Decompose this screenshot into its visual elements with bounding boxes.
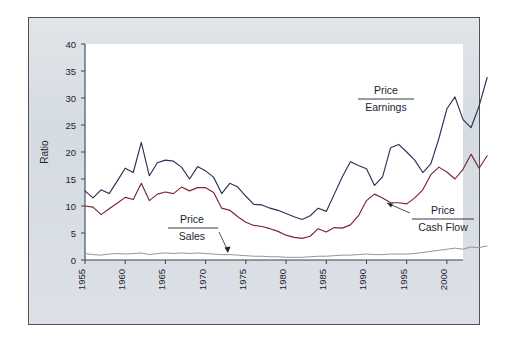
pe-denominator-label: Earnings: [365, 101, 406, 113]
y-tick-label: 15: [65, 174, 76, 185]
y-axis-ticks: 0510152025303540: [65, 39, 85, 266]
y-tick-label: 20: [65, 147, 76, 158]
x-tick-label: 1990: [357, 269, 368, 290]
y-tick-label: 25: [65, 120, 76, 131]
y-tick-label: 10: [65, 201, 76, 212]
x-tick-label: 1960: [116, 269, 127, 290]
x-tick-label: 1980: [277, 269, 288, 290]
ps-numerator-label: Price: [180, 213, 204, 225]
line-chart: 0510152025303540 19551960196519701975198…: [0, 0, 516, 346]
y-axis-title: Ratio: [39, 140, 50, 164]
x-tick-label: 2000: [438, 269, 449, 290]
pcf-denominator-label: Cash Flow: [418, 221, 468, 233]
y-tick-label: 0: [71, 255, 76, 266]
x-tick-label: 1955: [76, 269, 87, 290]
x-tick-label: 1975: [237, 269, 248, 290]
x-tick-label: 1985: [317, 269, 328, 290]
figure-page: 0510152025303540 19551960196519701975198…: [0, 0, 516, 346]
x-axis-ticks: 1955196019651970197519801985199019952000: [76, 260, 449, 290]
pe-numerator-label: Price: [374, 84, 398, 96]
y-tick-label: 5: [71, 228, 76, 239]
y-tick-label: 30: [65, 93, 76, 104]
x-tick-label: 1970: [197, 269, 208, 290]
pcf-numerator-label: Price: [431, 204, 455, 216]
x-tick-label: 1965: [156, 269, 167, 290]
plot-wrapper: 0510152025303540 19551960196519701975198…: [0, 0, 516, 346]
y-tick-label: 40: [65, 39, 76, 50]
y-tick-label: 35: [65, 66, 76, 77]
x-tick-label: 1995: [398, 269, 409, 290]
ps-denominator-label: Sales: [179, 230, 205, 242]
